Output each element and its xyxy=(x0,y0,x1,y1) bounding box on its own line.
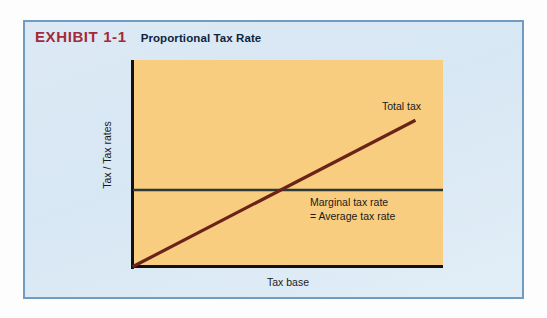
exhibit-panel: EXHIBIT 1-1 Proportional Tax Rate xyxy=(23,20,524,299)
exhibit-number: EXHIBIT 1-1 xyxy=(35,28,127,45)
exhibit-header: EXHIBIT 1-1 Proportional Tax Rate xyxy=(35,28,261,45)
page-root: EXHIBIT 1-1 Proportional Tax Rate Total … xyxy=(0,0,547,318)
page-title: Proportional Tax Rate xyxy=(141,32,262,44)
